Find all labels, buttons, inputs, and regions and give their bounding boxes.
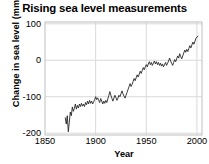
plot-area [0, 0, 209, 164]
plot-background [45, 22, 202, 135]
sea-level-chart-figure: Rising sea level measurements Change in … [0, 0, 209, 164]
